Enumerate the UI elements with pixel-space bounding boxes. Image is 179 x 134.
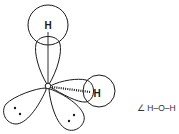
electron-dot xyxy=(73,114,75,116)
electron-dot xyxy=(14,107,16,109)
label-hydrogen-top: H xyxy=(44,20,51,31)
lone-pair-lobe-left xyxy=(4,88,46,124)
water-orbital-diagram: H H ∠ H–O–H xyxy=(0,0,179,134)
bond-angle-caption: ∠ H–O–H xyxy=(137,103,176,113)
electron-dot xyxy=(68,120,70,122)
label-hydrogen-right: H xyxy=(93,88,100,99)
electron-dot xyxy=(19,113,21,115)
oxygen-nucleus xyxy=(45,83,51,89)
lone-pair-lobe-bottom xyxy=(49,89,84,130)
